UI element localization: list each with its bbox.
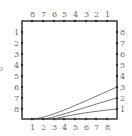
right-label: 6 bbox=[120, 50, 125, 59]
bottom-label: 8 bbox=[105, 123, 110, 132]
left-label: 8 bbox=[14, 105, 19, 114]
bottom-label: 7 bbox=[94, 123, 99, 132]
top-label: 6 bbox=[52, 10, 57, 19]
tick-dot bbox=[21, 42, 23, 44]
tick-dot bbox=[21, 108, 23, 110]
curve-bottom2-right2 bbox=[43, 98, 117, 119]
tick-dot bbox=[85, 118, 87, 120]
permutation-diagram: b 8 7 6 5 4 3 2 1 1 2 3 4 5 6 7 bbox=[0, 0, 132, 136]
tick-dot bbox=[106, 20, 108, 22]
tick-dot bbox=[74, 118, 76, 120]
bottom-label: 6 bbox=[84, 123, 89, 132]
tick-dot bbox=[31, 20, 33, 22]
curves bbox=[32, 87, 117, 119]
left-label: 1 bbox=[14, 28, 19, 37]
tick-dot bbox=[95, 118, 97, 120]
bottom-label: 3 bbox=[52, 123, 57, 132]
tick-dot bbox=[74, 20, 76, 22]
tick-dot bbox=[116, 31, 118, 33]
tick-dot bbox=[85, 20, 87, 22]
tick-dot bbox=[95, 20, 97, 22]
right-label: 5 bbox=[120, 61, 125, 70]
top-label: 4 bbox=[73, 10, 78, 19]
top-label: 5 bbox=[62, 10, 67, 19]
tick-dot bbox=[21, 75, 23, 77]
left-label: 5 bbox=[14, 72, 19, 81]
top-label: 2 bbox=[94, 10, 99, 19]
bottom-label: 4 bbox=[62, 123, 67, 132]
top-label: 1 bbox=[105, 10, 110, 19]
tick-dot bbox=[21, 86, 23, 88]
tick-dot bbox=[106, 118, 108, 120]
tick-dot bbox=[21, 53, 23, 55]
tick-dot bbox=[63, 118, 65, 120]
bottom-label: 5 bbox=[73, 123, 78, 132]
top-label: 8 bbox=[30, 10, 35, 19]
right-label: 4 bbox=[120, 72, 125, 81]
top-label: 7 bbox=[41, 10, 46, 19]
bottom-label: 2 bbox=[41, 123, 46, 132]
tick-dot bbox=[63, 20, 65, 22]
right-label: 2 bbox=[120, 94, 125, 103]
left-label: 2 bbox=[14, 39, 19, 48]
tick-dot bbox=[116, 64, 118, 66]
curve-bottom1-right3 bbox=[32, 87, 117, 119]
left-label: 6 bbox=[14, 83, 19, 92]
tick-dot bbox=[21, 31, 23, 33]
tick-dot bbox=[21, 64, 23, 66]
tick-dot bbox=[116, 53, 118, 55]
right-label: 7 bbox=[120, 39, 125, 48]
tick-dot bbox=[116, 75, 118, 77]
tick-dot bbox=[42, 20, 44, 22]
tick-dot bbox=[53, 20, 55, 22]
left-label: 4 bbox=[14, 61, 19, 70]
top-label: 3 bbox=[84, 10, 89, 19]
tick-dot bbox=[116, 42, 118, 44]
tick-dot bbox=[21, 97, 23, 99]
bottom-label: 1 bbox=[30, 123, 35, 132]
right-label: 3 bbox=[120, 83, 125, 92]
side-letter: b bbox=[0, 64, 3, 73]
left-label: 3 bbox=[14, 50, 19, 59]
diagram-frame bbox=[22, 21, 117, 119]
bottom-axis: 1 2 3 4 5 6 7 8 bbox=[30, 118, 110, 132]
left-label: 7 bbox=[14, 94, 19, 103]
right-label: 1 bbox=[120, 105, 125, 114]
right-label: 8 bbox=[120, 28, 125, 37]
